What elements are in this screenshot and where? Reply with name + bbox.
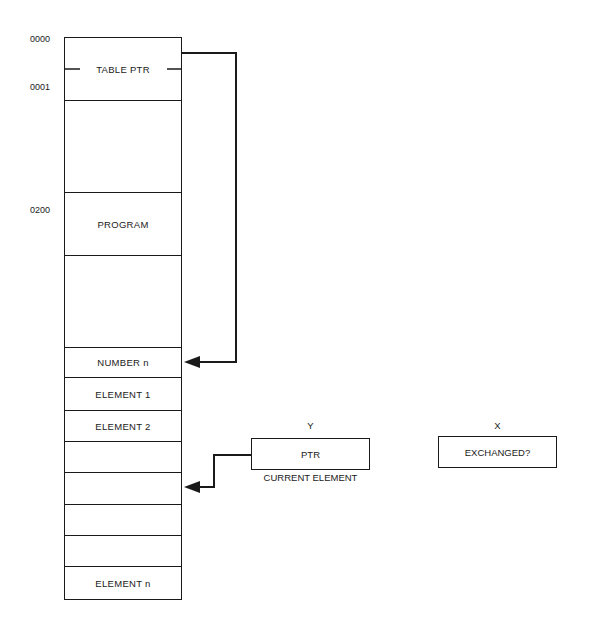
register-x-content: EXCHANGED?	[465, 447, 530, 458]
register-y-box: PTR	[251, 438, 370, 470]
register-y-caption: CURRENT ELEMENT	[251, 472, 370, 483]
register-x-name: X	[438, 420, 557, 431]
register-y-content: PTR	[301, 449, 320, 460]
register-x-box: EXCHANGED?	[438, 436, 557, 468]
connector-arrows	[0, 0, 589, 638]
register-y-name: Y	[251, 420, 370, 431]
